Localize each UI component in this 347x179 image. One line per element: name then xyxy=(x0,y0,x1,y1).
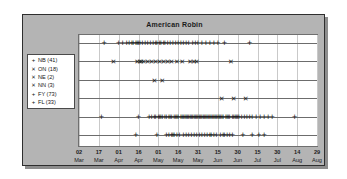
data-marker-fl: + xyxy=(250,131,255,140)
data-marker-fl: + xyxy=(133,131,138,140)
gridline-vertical xyxy=(238,35,239,146)
legend-item-on[interactable]: ✕ON (18) xyxy=(30,64,72,72)
plot-canvas: ++++++++++++++++++++++++++++++++++++++++… xyxy=(79,35,317,146)
data-marker-nn: ✕ xyxy=(243,95,249,102)
legend-item-label: FL (33) xyxy=(38,99,56,105)
legend-item-label: NB (41) xyxy=(38,57,57,63)
x-tick-month: May xyxy=(193,157,204,165)
plus-marker-icon: + xyxy=(30,91,37,97)
x-tick-day: 31 xyxy=(193,149,204,157)
legend-item-fl[interactable]: +FL (33) xyxy=(30,98,72,106)
x-tick-month: Mar xyxy=(94,157,104,165)
x-tick-day: 01 xyxy=(153,149,164,157)
legend-item-label: NE (2) xyxy=(38,74,54,80)
data-marker-on: ✕ xyxy=(194,58,200,65)
screenshot-root: American Robin +++++++++++++++++++++++++… xyxy=(0,0,347,179)
data-marker-fl: + xyxy=(230,131,235,140)
x-axis-tick-label: 16May xyxy=(173,149,184,164)
data-marker-on: ✕ xyxy=(179,58,185,65)
data-marker-fy: + xyxy=(269,112,274,121)
gridline-vertical xyxy=(99,35,100,146)
x-tick-month: Jul xyxy=(274,157,281,165)
data-marker-nb: + xyxy=(247,38,252,47)
x-tick-month: Aug xyxy=(312,157,322,165)
x-axis-tick-label: 02Mar xyxy=(74,149,84,164)
legend[interactable]: +NB (41)✕ON (18)✕NE (2)✕NN (3)+FY (73)+F… xyxy=(27,54,75,109)
x-tick-month: May xyxy=(173,157,184,165)
legend-item-label: FY (73) xyxy=(38,91,57,97)
data-marker-ne: ✕ xyxy=(151,76,157,83)
ex-marker-icon: ✕ xyxy=(30,66,37,72)
x-tick-day: 17 xyxy=(94,149,104,157)
x-axis-tick-label: 01May xyxy=(153,149,164,164)
data-marker-fy: + xyxy=(292,112,297,121)
ex-marker-icon: ✕ xyxy=(30,82,37,88)
x-tick-day: 14 xyxy=(292,149,302,157)
x-tick-day: 30 xyxy=(233,149,242,157)
x-axis-tick-label: 31May xyxy=(193,149,204,164)
data-marker-fl: + xyxy=(154,131,159,140)
x-tick-month: Jul xyxy=(254,157,261,165)
x-axis-tick-label: 15Jul xyxy=(254,149,261,164)
plus-marker-icon: + xyxy=(30,99,37,105)
data-marker-fy: + xyxy=(99,112,104,121)
legend-item-nb[interactable]: +NB (41) xyxy=(30,56,72,64)
x-tick-day: 30 xyxy=(274,149,281,157)
x-axis-tick-label: 16Apr xyxy=(134,149,143,164)
legend-rows: +NB (41)✕ON (18)✕NE (2)✕NN (3)+FY (73)+F… xyxy=(30,56,72,106)
plot-area: ++++++++++++++++++++++++++++++++++++++++… xyxy=(78,34,318,147)
x-tick-month: Apr xyxy=(134,157,143,165)
x-tick-day: 02 xyxy=(74,149,84,157)
x-tick-day: 01 xyxy=(114,149,123,157)
series-baseline-nn xyxy=(79,98,317,99)
x-tick-day: 15 xyxy=(213,149,222,157)
gridline-vertical xyxy=(119,35,120,146)
ex-marker-icon: ✕ xyxy=(30,74,37,80)
x-tick-month: Aug xyxy=(292,157,302,165)
x-tick-month: Mar xyxy=(74,157,84,165)
chart-panel: American Robin +++++++++++++++++++++++++… xyxy=(22,14,325,166)
gridline-vertical xyxy=(79,35,80,146)
x-tick-day: 16 xyxy=(173,149,184,157)
x-tick-month: Jun xyxy=(233,157,242,165)
series-baseline-ne xyxy=(79,80,317,81)
gridline-vertical xyxy=(297,35,298,146)
data-marker-nn: ✕ xyxy=(219,95,225,102)
legend-item-fy[interactable]: +FY (73) xyxy=(30,90,72,98)
x-tick-month: Jun xyxy=(213,157,222,165)
gridline-vertical xyxy=(277,35,278,146)
x-axis-tick-label: 15Jun xyxy=(213,149,222,164)
data-marker-nb: + xyxy=(222,38,227,47)
x-tick-month: May xyxy=(153,157,164,165)
x-axis-tick-label: 17Mar xyxy=(94,149,104,164)
x-tick-day: 16 xyxy=(134,149,143,157)
gridline-vertical xyxy=(317,35,318,146)
data-marker-nb: + xyxy=(101,38,106,47)
plus-marker-icon: + xyxy=(30,57,37,63)
x-axis-tick-label: 01Apr xyxy=(114,149,123,164)
legend-item-label: NN (3) xyxy=(38,82,54,88)
x-axis-tick-label: 14Aug xyxy=(292,149,302,164)
data-marker-fl: + xyxy=(261,131,266,140)
legend-item-ne[interactable]: ✕NE (2) xyxy=(30,73,72,81)
data-marker-fy: + xyxy=(136,112,141,121)
gridline-vertical xyxy=(139,35,140,146)
x-axis-tick-label: 29Aug xyxy=(312,149,322,164)
page-title: American Robin xyxy=(23,21,326,28)
data-marker-on: ✕ xyxy=(110,58,116,65)
data-marker-on: ✕ xyxy=(228,58,234,65)
x-axis-tick-label: 30Jun xyxy=(233,149,242,164)
x-tick-month: Apr xyxy=(114,157,123,165)
data-marker-ne: ✕ xyxy=(159,76,165,83)
legend-item-label: ON (18) xyxy=(38,66,58,72)
x-axis-tick-label: 30Jul xyxy=(274,149,281,164)
data-marker-nb: + xyxy=(215,38,220,47)
legend-item-nn[interactable]: ✕NN (3) xyxy=(30,81,72,89)
x-tick-day: 29 xyxy=(312,149,322,157)
data-marker-fl: + xyxy=(240,131,245,140)
data-marker-nn: ✕ xyxy=(231,95,237,102)
x-tick-day: 15 xyxy=(254,149,261,157)
